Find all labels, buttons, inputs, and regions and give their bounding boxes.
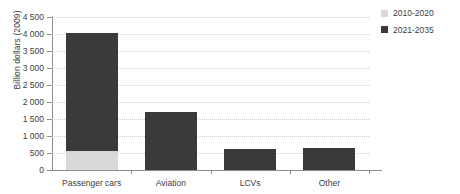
legend-item[interactable]: 2021-2035 (381, 26, 434, 35)
bar-chart: Billion dollars (2009) 05001 0001 5002 0… (0, 0, 460, 194)
bar-segment[interactable] (224, 149, 276, 170)
x-axis-tick (211, 170, 212, 174)
y-axis-tick-label: 2 000 (23, 98, 44, 107)
legend-label: 2010-2020 (393, 9, 434, 18)
y-axis-tick-label: 1 000 (23, 132, 44, 141)
y-axis-tick-label: 4 500 (23, 13, 44, 22)
y-axis-tick (47, 68, 52, 69)
y-axis-tick-label: 3 000 (23, 64, 44, 73)
y-axis-title: Billion dollars (2009) (12, 0, 22, 115)
bar-group[interactable] (224, 17, 276, 170)
bar-segment[interactable] (66, 151, 118, 170)
x-axis-tick (290, 170, 291, 174)
y-axis-tick (47, 153, 52, 154)
x-axis-line (52, 170, 382, 171)
y-axis-tick (47, 102, 52, 103)
x-axis-tick-label: LCVs (240, 178, 261, 188)
y-axis-tick (47, 170, 52, 171)
x-axis-tick-label: Aviation (156, 178, 186, 188)
y-axis-tick (47, 51, 52, 52)
y-axis-tick (47, 17, 52, 18)
plot-area: 05001 0001 5002 0002 5003 0003 5004 0004… (52, 17, 369, 170)
y-axis-tick-label: 0 (39, 166, 44, 175)
y-axis-tick-label: 1 500 (23, 115, 44, 124)
bar-group[interactable] (303, 17, 355, 170)
legend-swatch-icon (381, 26, 388, 33)
legend: 2010-2020 2021-2035 (381, 9, 434, 42)
y-axis-tick-label: 500 (30, 149, 44, 158)
bar-segment[interactable] (303, 148, 355, 170)
x-axis-tick (369, 170, 370, 174)
y-axis-tick-label: 2 500 (23, 81, 44, 90)
legend-label: 2021-2035 (393, 26, 434, 35)
x-axis-tick-label: Other (319, 178, 340, 188)
x-axis-tick (131, 170, 132, 174)
bar-group[interactable] (145, 17, 197, 170)
y-axis-tick (47, 119, 52, 120)
y-axis-tick-label: 4 000 (23, 30, 44, 39)
y-axis-tick (47, 34, 52, 35)
y-axis-tick (47, 136, 52, 137)
legend-item[interactable]: 2010-2020 (381, 9, 434, 18)
bar-segment[interactable] (66, 33, 118, 151)
x-axis-tick-label: Passenger cars (62, 178, 121, 188)
bar-segment[interactable] (145, 112, 197, 170)
bar-group[interactable] (66, 17, 118, 170)
y-axis-tick-label: 3 500 (23, 47, 44, 56)
y-axis-tick (47, 85, 52, 86)
legend-swatch-icon (381, 10, 388, 17)
